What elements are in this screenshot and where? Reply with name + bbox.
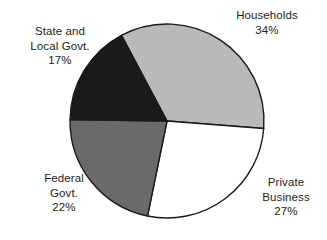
pie-chart-figure: Households 34% State and Local Govt. 17%… [0,0,327,240]
pie-label-state-local-govt-line2: Local Govt. [8,39,112,54]
pie-label-private-business-line1: Private [248,175,324,190]
pie-label-households-percent: 34% [215,23,319,38]
pie-label-households-line1: Households [215,8,319,23]
pie-label-federal-govt-line2: Govt. [14,186,114,201]
pie-label-federal-govt: Federal Govt. 22% [14,171,114,215]
pie-label-private-business-line2: Business [248,190,324,205]
pie-label-federal-govt-percent: 22% [14,200,114,215]
pie-label-state-local-govt-percent: 17% [8,53,112,68]
pie-label-state-local-govt-line1: State and [8,24,112,39]
pie-label-private-business-percent: 27% [248,204,324,219]
pie-label-private-business: Private Business 27% [248,175,324,219]
pie-label-federal-govt-line1: Federal [14,171,114,186]
pie-label-state-local-govt: State and Local Govt. 17% [8,24,112,68]
pie-label-households: Households 34% [215,8,319,37]
pie-slice-private-business[interactable] [148,121,264,218]
